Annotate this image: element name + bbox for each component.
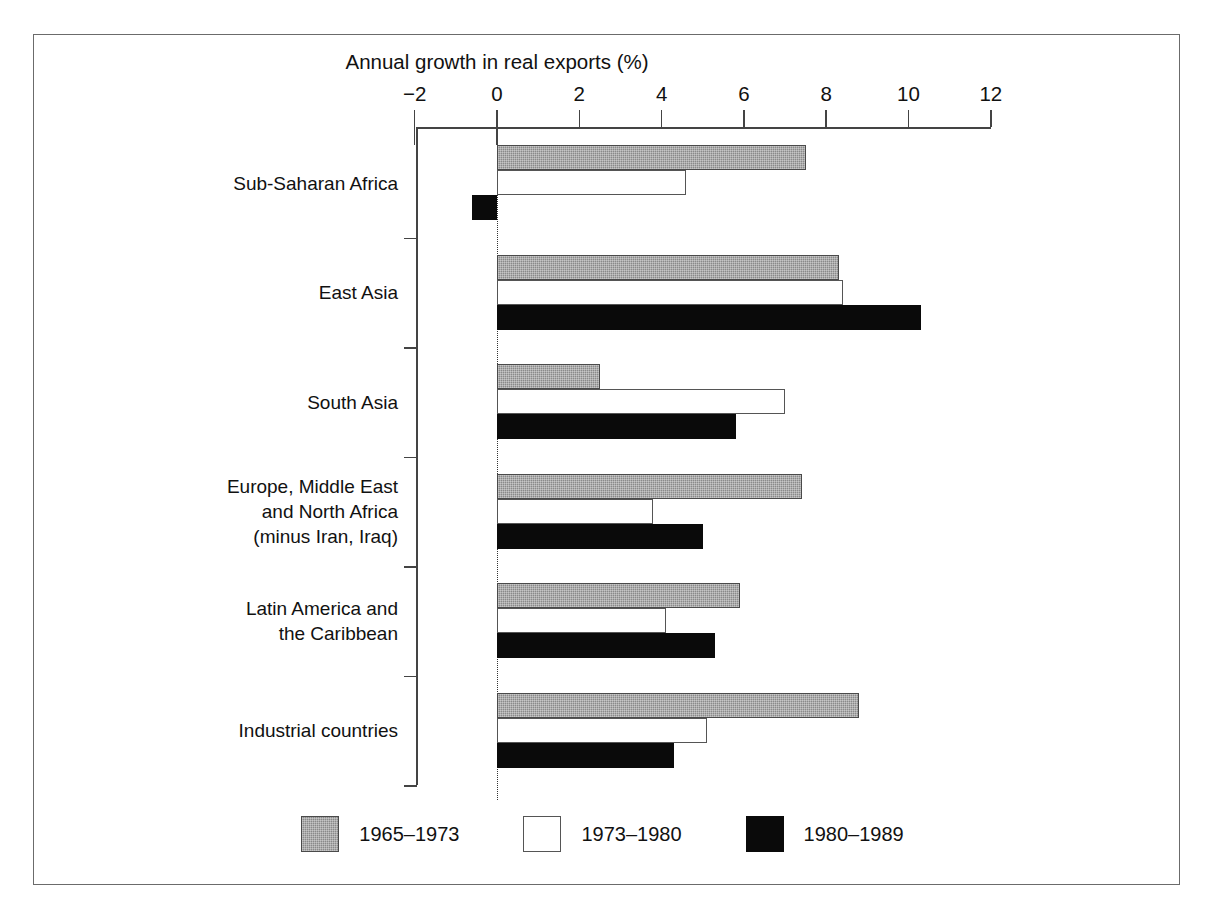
- chart-legend: 1965–19731973–19801980–1989: [0, 816, 1205, 852]
- legend-swatch-gray: [301, 816, 339, 852]
- legend-label-1: 1973–1980: [581, 823, 681, 846]
- legend-label-0: 1965–1973: [359, 823, 459, 846]
- legend-label-2: 1980–1989: [804, 823, 904, 846]
- legend-item-0[interactable]: 1965–1973: [301, 816, 459, 852]
- legend-swatch-black: [746, 816, 784, 852]
- chart-title: Annual growth in real exports (%): [345, 50, 648, 74]
- legend-item-2[interactable]: 1980–1989: [746, 816, 904, 852]
- figure-frame: [33, 34, 1180, 885]
- legend-swatch-white: [523, 816, 561, 852]
- legend-item-1[interactable]: 1973–1980: [523, 816, 681, 852]
